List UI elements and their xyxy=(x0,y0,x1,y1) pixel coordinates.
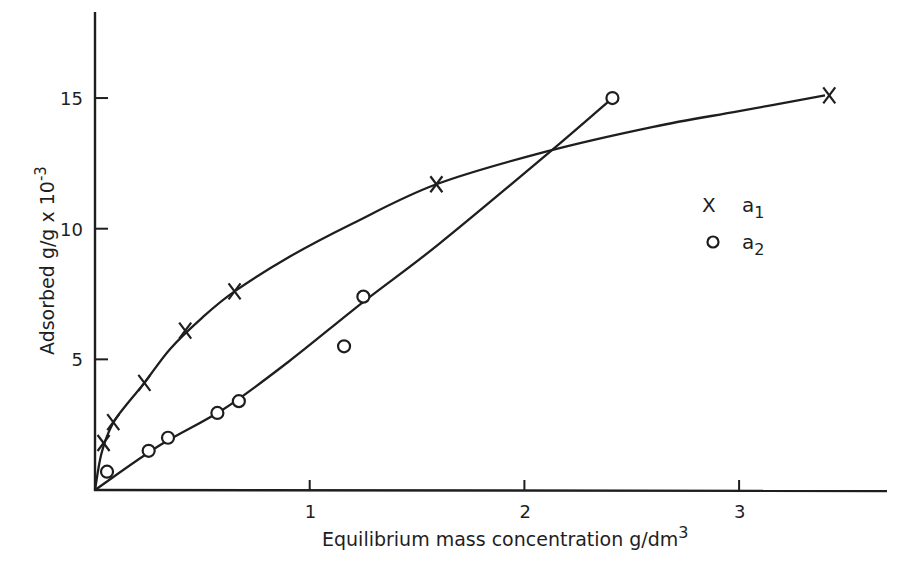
y-tick-label: 15 xyxy=(60,88,83,109)
x-tick-label: 3 xyxy=(734,501,745,522)
adsorption-isotherm-chart: 12351015 Xa1a2 Equilibrium mass concentr… xyxy=(0,0,906,577)
legend-item-2: a2 xyxy=(708,230,765,259)
marker-circle xyxy=(211,407,223,419)
y-axis-label: Adsorbed g/g x 10-3 xyxy=(32,166,58,355)
legend-item-1: Xa1 xyxy=(702,193,764,222)
axes: 12351015 xyxy=(60,12,887,522)
curve-a1 xyxy=(95,95,825,490)
marker-circle xyxy=(338,340,350,352)
marker-circle xyxy=(101,466,113,478)
x-tick-label: 2 xyxy=(519,501,530,522)
fitted-curves xyxy=(95,95,825,490)
legend-label: a1 xyxy=(742,193,764,222)
x-axis-line xyxy=(94,490,887,491)
curve-a2 xyxy=(95,98,612,490)
marker-circle xyxy=(162,432,174,444)
x-axis-label: Equilibrium mass concentration g/dm3 xyxy=(322,523,689,550)
marker-x xyxy=(107,414,119,430)
marker-circle xyxy=(143,445,155,457)
legend-circle-symbol xyxy=(708,237,719,248)
marker-circle xyxy=(357,291,369,303)
legend: Xa1a2 xyxy=(702,193,764,259)
marker-x xyxy=(229,283,241,299)
marker-circle xyxy=(233,395,245,407)
legend-label: a2 xyxy=(742,230,764,259)
marker-circle xyxy=(606,92,618,104)
y-tick-label: 10 xyxy=(60,219,83,240)
x-tick-label: 1 xyxy=(305,501,316,522)
marker-x xyxy=(430,176,442,192)
y-tick-label: 5 xyxy=(72,349,83,370)
marker-x xyxy=(138,375,150,391)
marker-x xyxy=(823,87,835,103)
legend-x-symbol: X xyxy=(702,193,716,217)
